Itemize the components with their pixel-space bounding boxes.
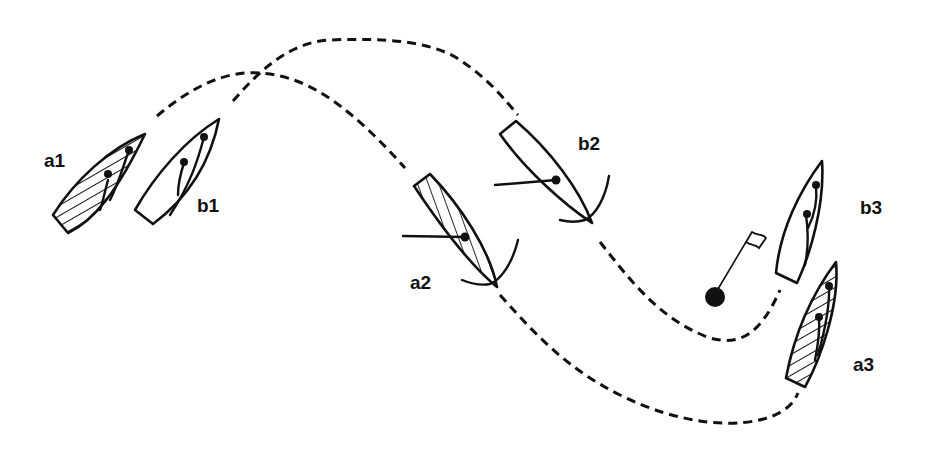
flag-pole bbox=[718, 242, 746, 289]
mast-a1 bbox=[125, 146, 133, 154]
label-a1: a1 bbox=[44, 150, 66, 171]
label-a2: a2 bbox=[410, 272, 431, 293]
label-a3: a3 bbox=[853, 354, 874, 375]
boat-b2: b2 bbox=[495, 121, 609, 223]
label-b2: b2 bbox=[578, 133, 600, 154]
mark-buoy-icon bbox=[705, 287, 725, 307]
label-b1: b1 bbox=[197, 195, 220, 216]
helm-a1 bbox=[104, 170, 112, 178]
boat-a2: a2 bbox=[403, 174, 518, 293]
helm-b3 bbox=[803, 210, 811, 218]
track-b-1 bbox=[233, 39, 518, 115]
boat-a1: a1 bbox=[44, 134, 145, 233]
hull-a2 bbox=[414, 174, 497, 287]
track-a-2 bbox=[500, 295, 798, 423]
boom-a2 bbox=[403, 236, 465, 237]
track-b-2 bbox=[600, 242, 780, 340]
mast-b1 bbox=[200, 133, 208, 141]
helm-a3 bbox=[815, 313, 823, 321]
sailing-diagram: a1 b1 a2 b2 b3 bbox=[0, 0, 931, 455]
mast-a3 bbox=[825, 282, 833, 290]
helm-b1 bbox=[180, 158, 188, 166]
mast-b2 bbox=[552, 176, 561, 185]
label-b3: b3 bbox=[860, 197, 882, 218]
flag-icon bbox=[746, 232, 766, 248]
boat-b1: b1 bbox=[135, 119, 220, 224]
tracks bbox=[157, 39, 798, 423]
mast-a2 bbox=[461, 233, 470, 242]
boat-b3: b3 bbox=[776, 161, 882, 283]
mark bbox=[705, 232, 766, 307]
mast-b3 bbox=[812, 181, 820, 189]
hull-b3 bbox=[776, 161, 822, 283]
